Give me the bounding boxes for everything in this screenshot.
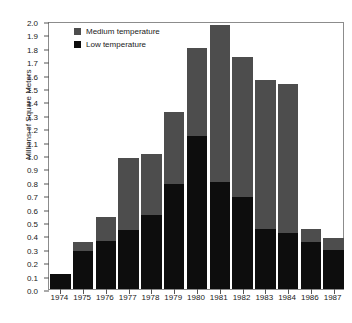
y-axis-tick-label: 0.2 bbox=[0, 260, 38, 269]
bar-column[interactable] bbox=[118, 21, 138, 289]
x-axis-tick-label: 1976 bbox=[96, 293, 114, 302]
legend-swatch-medium-icon bbox=[74, 28, 81, 35]
bar-column[interactable] bbox=[278, 21, 298, 289]
bar-column[interactable] bbox=[187, 21, 207, 289]
bar-segment-low[interactable] bbox=[141, 215, 161, 289]
y-axis-tick-label: 0.5 bbox=[0, 220, 38, 229]
x-axis-tick-label: 1981 bbox=[210, 293, 228, 302]
y-axis-tick-label: 1.7 bbox=[0, 59, 38, 68]
bar-segment-medium[interactable] bbox=[255, 80, 275, 229]
x-axis-tick-label: 1983 bbox=[255, 293, 273, 302]
x-axis-tick-label: 1975 bbox=[73, 293, 91, 302]
chart-legend: Medium temperature Low temperature bbox=[74, 26, 160, 52]
x-axis-tick-label: 1986 bbox=[301, 293, 319, 302]
bar-column[interactable] bbox=[141, 21, 161, 289]
bar-segment-low[interactable] bbox=[278, 233, 298, 289]
bar-segment-low[interactable] bbox=[96, 241, 116, 289]
y-axis-tick-label: 0.8 bbox=[0, 179, 38, 188]
x-axis-tick-label: 1977 bbox=[119, 293, 137, 302]
bar-segment-low[interactable] bbox=[50, 274, 70, 289]
bar-segment-low[interactable] bbox=[73, 251, 93, 289]
legend-item-low: Low temperature bbox=[74, 39, 160, 49]
bar-segment-low[interactable] bbox=[210, 182, 230, 289]
legend-label-medium: Medium temperature bbox=[86, 27, 160, 36]
bar-column[interactable] bbox=[96, 21, 116, 289]
y-axis-tick-label: 0.6 bbox=[0, 206, 38, 215]
bar-segment-low[interactable] bbox=[164, 184, 184, 289]
y-axis-tick-label: 0.9 bbox=[0, 166, 38, 175]
y-axis-tick-label: 1.5 bbox=[0, 86, 38, 95]
x-axis-tick-label: 1978 bbox=[142, 293, 160, 302]
y-axis-tick-label: 0.1 bbox=[0, 273, 38, 282]
x-axis-tick-label: 1982 bbox=[233, 293, 251, 302]
x-axis-tick-label: 1987 bbox=[324, 293, 342, 302]
bar-column[interactable] bbox=[301, 21, 321, 289]
y-axis-tick-label: 0.4 bbox=[0, 233, 38, 242]
y-axis-tick-label: 1.1 bbox=[0, 139, 38, 148]
bar-segment-medium[interactable] bbox=[73, 242, 93, 251]
legend-swatch-low-icon bbox=[74, 41, 81, 48]
plot-area: 0.00.10.20.30.40.50.60.70.80.91.01.11.21… bbox=[48, 22, 344, 290]
bar-segment-low[interactable] bbox=[187, 136, 207, 289]
y-axis-tick-label: 1.0 bbox=[0, 153, 38, 162]
bar-segment-low[interactable] bbox=[323, 250, 343, 289]
bar-segment-low[interactable] bbox=[255, 229, 275, 289]
bar-column[interactable] bbox=[323, 21, 343, 289]
bar-column[interactable] bbox=[50, 21, 70, 289]
bar-column[interactable] bbox=[210, 21, 230, 289]
bar-segment-medium[interactable] bbox=[278, 84, 298, 233]
bar-chart: Millions of Square Meters 0.00.10.20.30.… bbox=[0, 0, 352, 323]
y-axis-tick-label: 1.9 bbox=[0, 32, 38, 41]
bar-segment-medium[interactable] bbox=[187, 48, 207, 136]
bar-column[interactable] bbox=[73, 21, 93, 289]
bar-segment-medium[interactable] bbox=[118, 158, 138, 230]
bar-segment-medium[interactable] bbox=[301, 229, 321, 242]
bar-segment-medium[interactable] bbox=[96, 217, 116, 241]
y-axis-tick-label: 0.7 bbox=[0, 193, 38, 202]
bar-series-group bbox=[49, 23, 343, 289]
bar-segment-medium[interactable] bbox=[141, 154, 161, 216]
y-axis-tick-label: 2.0 bbox=[0, 19, 38, 28]
legend-label-low: Low temperature bbox=[86, 40, 146, 49]
bar-segment-low[interactable] bbox=[118, 230, 138, 289]
bar-column[interactable] bbox=[232, 21, 252, 289]
bar-segment-medium[interactable] bbox=[323, 238, 343, 250]
y-axis-tick-label: 1.2 bbox=[0, 126, 38, 135]
bar-segment-medium[interactable] bbox=[232, 57, 252, 196]
y-axis-tick-label: 1.4 bbox=[0, 99, 38, 108]
x-axis-tick-label: 1984 bbox=[278, 293, 296, 302]
y-axis-tick-label: 0.3 bbox=[0, 246, 38, 255]
y-axis-tick-label: 1.6 bbox=[0, 72, 38, 81]
x-axis-tick-label: 1979 bbox=[164, 293, 182, 302]
bar-segment-low[interactable] bbox=[232, 197, 252, 289]
x-axis-tick-label: 1974 bbox=[50, 293, 68, 302]
legend-item-medium: Medium temperature bbox=[74, 26, 160, 36]
bar-segment-medium[interactable] bbox=[210, 25, 230, 182]
bar-column[interactable] bbox=[255, 21, 275, 289]
y-axis-tick-label: 1.3 bbox=[0, 112, 38, 121]
x-axis-tick-label: 1980 bbox=[187, 293, 205, 302]
y-axis-tick-label: 0.0 bbox=[0, 287, 38, 296]
y-axis-tick-label: 1.8 bbox=[0, 45, 38, 54]
bar-column[interactable] bbox=[164, 21, 184, 289]
y-axis-tick-mark bbox=[44, 291, 49, 292]
bar-segment-medium[interactable] bbox=[164, 112, 184, 184]
bar-segment-low[interactable] bbox=[301, 242, 321, 289]
